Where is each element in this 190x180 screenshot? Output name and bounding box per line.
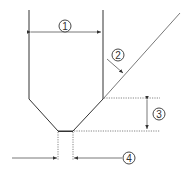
label-4: 4: [126, 153, 132, 164]
dimension-2: 2: [107, 49, 124, 73]
dimension-3: 3: [74, 98, 165, 131]
dimension-4: 4: [12, 132, 135, 164]
tip-profile-diagram: 1 2 3 4: [0, 0, 190, 180]
label-1: 1: [62, 21, 68, 32]
label-3: 3: [156, 109, 162, 120]
dimension-1: 1: [31, 20, 101, 32]
label-2: 2: [115, 50, 121, 61]
